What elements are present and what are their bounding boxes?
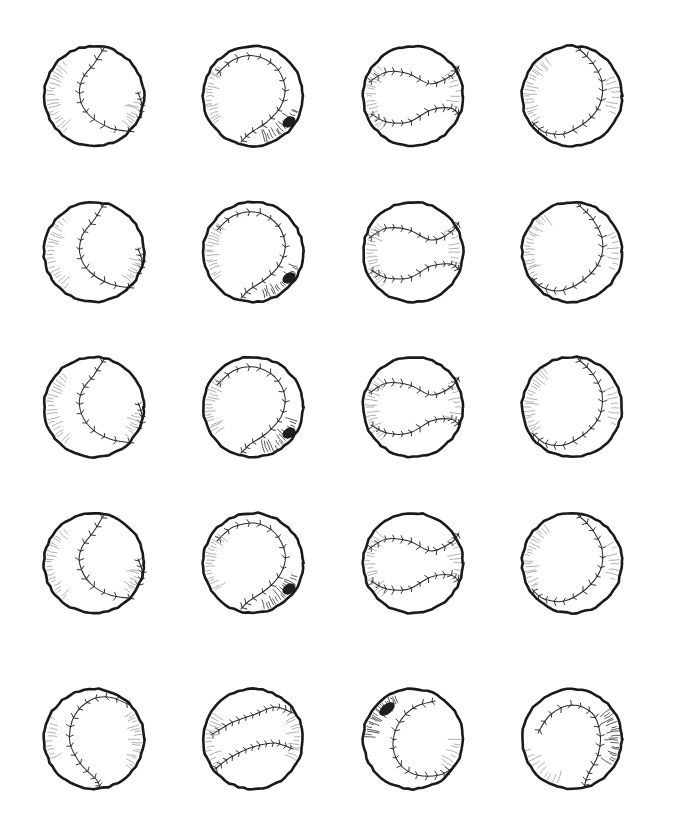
baseball-icon <box>516 196 628 308</box>
baseball-icon <box>357 40 469 152</box>
baseball-icon <box>197 507 309 619</box>
baseball-icon <box>197 40 309 152</box>
baseball-icon <box>38 40 150 152</box>
baseball-icon <box>38 507 150 619</box>
baseball-icon <box>516 40 628 152</box>
baseball-icon <box>357 351 469 463</box>
baseball-icon <box>197 683 309 795</box>
baseball-icon <box>516 507 628 619</box>
baseball-icon <box>38 683 150 795</box>
baseball-icon <box>197 351 309 463</box>
baseball-icon <box>357 683 469 795</box>
baseball-icon <box>38 196 150 308</box>
baseball-icon <box>357 196 469 308</box>
baseball-icon <box>38 351 150 463</box>
baseball-icon <box>197 196 309 308</box>
baseball-icon <box>357 507 469 619</box>
baseball-icon <box>516 351 628 463</box>
baseball-icon <box>516 683 628 795</box>
baseball-sketch-sheet <box>0 0 673 835</box>
